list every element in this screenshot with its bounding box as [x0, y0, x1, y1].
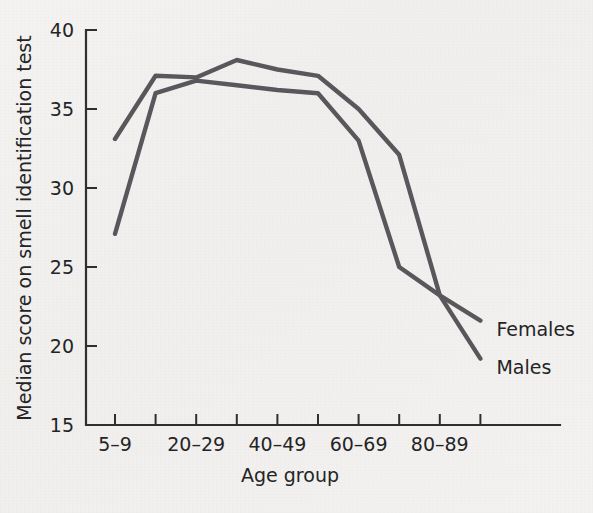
series-label-females: Females: [496, 318, 575, 340]
x-tick-label: 5–9: [98, 433, 132, 455]
y-tick-label: 35: [50, 98, 74, 120]
chart-figure: 152025303540 5–920–2940–4960–6980–89 Fem…: [0, 0, 593, 513]
y-tick-label: 40: [50, 19, 74, 41]
x-tick-label: 40–49: [248, 433, 306, 455]
y-tick-label: 15: [50, 414, 74, 436]
series-line-males: [115, 81, 480, 359]
y-tick-label: 30: [50, 177, 74, 199]
x-tick-label: 60–69: [330, 433, 388, 455]
series-label-males: Males: [496, 356, 551, 378]
axis-lines: [86, 30, 560, 425]
y-axis-title: Median score on smell identification tes…: [13, 35, 35, 420]
x-tick-label: 20–29: [167, 433, 225, 455]
series-line-females: [115, 60, 480, 321]
x-tick-label: 80–89: [411, 433, 469, 455]
y-tick-label: 20: [50, 335, 74, 357]
x-axis-ticks: 5–920–2940–4960–6980–89: [98, 414, 480, 455]
y-tick-label: 25: [50, 256, 74, 278]
chart-series-lines: [115, 60, 480, 359]
chart-series-labels: FemalesMales: [496, 318, 575, 378]
line-chart: 152025303540 5–920–2940–4960–6980–89 Fem…: [0, 0, 593, 513]
chart-axes: [86, 30, 560, 425]
x-axis-title: Age group: [241, 464, 339, 486]
y-axis-ticks: 152025303540: [50, 19, 97, 436]
